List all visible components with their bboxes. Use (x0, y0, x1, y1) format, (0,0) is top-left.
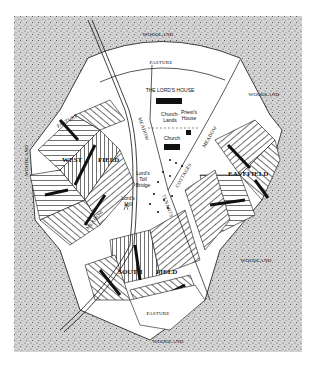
label-south-field: SOUTH (118, 268, 143, 276)
label-church-lands-2: Lands (163, 117, 177, 123)
label-west-field-2: FIELD (98, 156, 119, 164)
label-woodland-top: WOODLAND (142, 32, 173, 37)
label-east-field: EAST (228, 170, 247, 178)
label-lords-house: THE LORD'S HOUSE (146, 87, 195, 93)
label-church: Church (164, 135, 180, 141)
lords-house-building (156, 98, 182, 104)
label-pasture-bottom: PASTURE (146, 311, 169, 316)
priests-house-building (186, 130, 191, 135)
label-priests-house-2: House (182, 115, 197, 121)
label-pasture-top: PASTURE (149, 60, 172, 65)
label-toll-bridge-3: Bridge (136, 182, 151, 188)
label-woodland-bottom: WOODLAND (152, 339, 183, 344)
label-woodland-se: WOODLAND (240, 258, 271, 263)
label-east-field-2: FIELD (247, 170, 268, 178)
label-woodland-right: WOODLAND (248, 92, 279, 97)
label-south-field-2: FIELD (156, 268, 177, 276)
church-building (164, 144, 180, 150)
label-west-field: WEST (62, 156, 83, 164)
manor-map: WOODLAND PASTURE THE LORD'S HOUSE WOODLA… (0, 0, 313, 368)
label-woodland-left: WOODLAND (24, 145, 29, 176)
